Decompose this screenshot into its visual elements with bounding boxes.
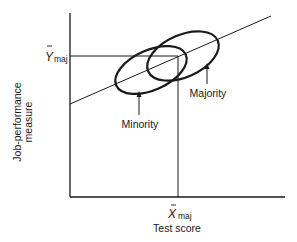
x-mean-marker: X maj [167, 205, 192, 221]
x-mean-subscript: maj [178, 211, 192, 221]
y-axis-label: Job-performance measure [11, 82, 34, 162]
x-mean-symbol: X [167, 207, 177, 221]
regression-line [70, 16, 271, 104]
minority-label: Minority [122, 118, 160, 130]
y-mean-subscript: maj [54, 54, 68, 64]
y-axis-label-line2: measure [22, 101, 34, 142]
x-axis-label: Test score [153, 222, 201, 234]
y-mean-marker: Y maj [45, 46, 68, 64]
y-mean-symbol: Y [45, 50, 54, 64]
diagram-canvas: Minority Majority Y maj X maj Test score… [0, 0, 297, 242]
majority-label: Majority [190, 87, 228, 99]
minority-ellipse [108, 36, 194, 103]
